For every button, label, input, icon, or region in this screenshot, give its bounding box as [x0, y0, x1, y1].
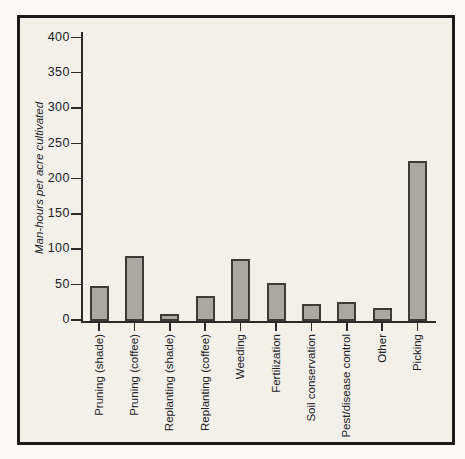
- y-tick-label: 250: [30, 136, 70, 151]
- x-category-label: Picking: [411, 334, 424, 371]
- y-tick-label: 0: [30, 312, 70, 327]
- y-tick-label: 100: [30, 241, 70, 256]
- y-tick-label: 150: [30, 206, 70, 221]
- x-tick-mark: [98, 323, 100, 331]
- x-category-label: Replanting (shade): [163, 334, 176, 431]
- x-tick-mark: [417, 323, 419, 331]
- bar-fertilization: [267, 283, 286, 321]
- y-tick-label: 200: [30, 171, 70, 186]
- bar-picking: [408, 161, 427, 321]
- bar-pest-disease-control: [337, 302, 356, 321]
- bar-replanting-coffee: [196, 296, 215, 321]
- x-tick-mark: [204, 323, 206, 331]
- x-category-label: Replanting (coffee): [199, 334, 212, 431]
- y-tick-label: 50: [30, 277, 70, 292]
- y-tick-mark: [71, 107, 81, 109]
- y-tick-mark: [71, 319, 81, 321]
- x-category-label: Other: [376, 334, 389, 363]
- x-tick-mark: [134, 323, 136, 331]
- y-tick-mark: [71, 178, 81, 180]
- x-category-label: Pruning (shade): [93, 334, 106, 416]
- x-category-label: Soil conservation: [305, 334, 318, 422]
- y-axis-line: [81, 32, 83, 323]
- y-tick-mark: [71, 213, 81, 215]
- x-tick-mark: [381, 323, 383, 331]
- y-tick-mark: [71, 143, 81, 145]
- bar-replanting-shade: [160, 314, 179, 321]
- bar-weeding: [231, 259, 250, 321]
- x-tick-mark: [169, 323, 171, 331]
- x-tick-mark: [346, 323, 348, 331]
- bar-pruning-shade: [90, 286, 109, 321]
- bar-other: [373, 308, 392, 321]
- y-tick-mark: [71, 72, 81, 74]
- bar-soil-conservation: [302, 304, 321, 321]
- x-category-label: Weeding: [234, 334, 247, 379]
- y-tick-label: 400: [30, 30, 70, 45]
- x-tick-mark: [275, 323, 277, 331]
- x-category-label: Fertilization: [270, 334, 283, 393]
- y-tick-mark: [71, 248, 81, 250]
- y-tick-label: 300: [30, 100, 70, 115]
- x-tick-mark: [240, 323, 242, 331]
- y-tick-label: 350: [30, 65, 70, 80]
- y-tick-mark: [71, 284, 81, 286]
- x-category-label: Pest/disease control: [340, 334, 353, 438]
- x-tick-mark: [311, 323, 313, 331]
- y-tick-mark: [71, 37, 81, 39]
- bar-pruning-coffee: [125, 256, 144, 321]
- x-category-label: Pruning (coffee): [128, 334, 141, 416]
- figure-canvas: Man-hours per acre cultivated 0501001502…: [0, 0, 465, 459]
- plot-area: Man-hours per acre cultivated 0501001502…: [0, 0, 465, 459]
